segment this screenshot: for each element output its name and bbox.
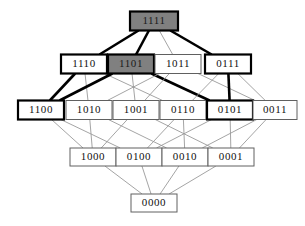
- edge-0011-0010: [202, 120, 257, 149]
- node-label-0110: 0110: [171, 103, 195, 115]
- node-1000[interactable]: 1000: [70, 148, 116, 166]
- node-label-0100: 0100: [127, 150, 151, 162]
- node-0101[interactable]: 0101: [207, 101, 253, 120]
- node-label-1100: 1100: [29, 103, 53, 115]
- edge-1111-0111: [170, 31, 211, 55]
- edge-1010-0010: [108, 120, 166, 149]
- edge-1001-1000: [101, 120, 127, 149]
- edge-1101-0101: [151, 74, 209, 101]
- node-label-0011: 0011: [263, 103, 287, 115]
- node-1101[interactable]: 1101: [108, 55, 154, 74]
- lattice-diagram: 1111111011011011011111001010100101100101…: [0, 0, 305, 226]
- node-label-0001: 0001: [219, 150, 243, 162]
- node-0001[interactable]: 0001: [208, 148, 254, 166]
- node-layer: 1111111011011011011111001010100101100101…: [18, 12, 297, 213]
- edge-0111-0101: [228, 74, 229, 101]
- node-label-0111: 0111: [216, 57, 240, 69]
- node-0011[interactable]: 0011: [253, 101, 297, 120]
- node-label-0000: 0000: [142, 196, 166, 208]
- node-label-0101: 0101: [218, 103, 242, 115]
- node-label-0010: 0010: [173, 150, 197, 162]
- edge-0110-0100: [147, 120, 174, 149]
- node-0100[interactable]: 0100: [116, 148, 162, 166]
- edge-1011-0011: [198, 74, 255, 101]
- node-label-1111: 1111: [142, 14, 165, 26]
- node-1010[interactable]: 1010: [66, 101, 112, 120]
- node-label-1110: 1110: [72, 57, 96, 69]
- edge-1110-1100: [50, 74, 75, 101]
- edge-1111-1011: [159, 31, 172, 55]
- node-1001[interactable]: 1001: [113, 101, 159, 120]
- node-label-1011: 1011: [166, 57, 190, 69]
- node-label-1000: 1000: [81, 150, 105, 162]
- edge-0111-0110: [192, 74, 218, 101]
- node-0111[interactable]: 0111: [205, 55, 251, 74]
- node-0110[interactable]: 0110: [160, 101, 206, 120]
- edge-1111-1110: [99, 31, 138, 55]
- node-0010[interactable]: 0010: [162, 148, 208, 166]
- lattice-svg: 1111111011011011011111001010100101100101…: [0, 0, 305, 226]
- edge-1000-0000: [105, 166, 142, 194]
- edge-0100-0000: [142, 166, 151, 194]
- edge-0011-0001: [239, 120, 266, 149]
- edge-1100-1000: [52, 120, 84, 149]
- node-1100[interactable]: 1100: [18, 101, 64, 120]
- edge-1011-1001: [145, 74, 170, 101]
- node-1110[interactable]: 1110: [61, 55, 107, 74]
- node-0000[interactable]: 0000: [131, 194, 177, 212]
- node-label-1010: 1010: [77, 103, 101, 115]
- edge-1011-1010: [107, 74, 159, 101]
- node-1011[interactable]: 1011: [155, 55, 201, 74]
- node-label-1101: 1101: [119, 57, 143, 69]
- node-1111[interactable]: 1111: [130, 12, 178, 31]
- edge-1111-1101: [136, 31, 149, 55]
- node-label-1001: 1001: [124, 103, 148, 115]
- edge-0111-0011: [238, 74, 266, 101]
- edge-1101-1100: [60, 74, 113, 101]
